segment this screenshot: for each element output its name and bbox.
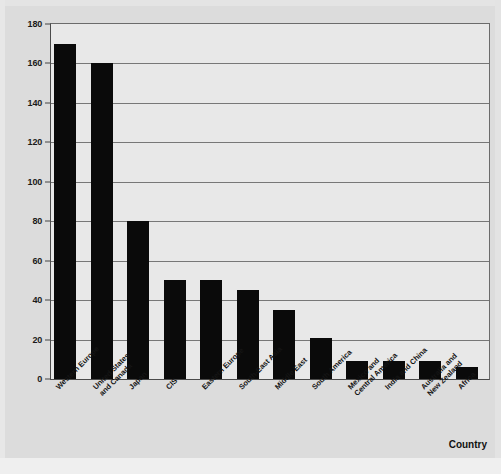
y-axis-tick-label: 180 [28,19,42,29]
y-axis-tick-label: 20 [32,335,42,345]
chart-figure: 020406080100120140160180 Western EuropeU… [0,0,501,474]
x-axis-title: Country [449,439,487,450]
x-axis-tick-labels: Western EuropeUnited States and CanadaJa… [0,381,501,461]
bar [54,44,76,379]
bar [164,280,186,379]
figure-top-margin [0,0,501,6]
y-axis-tick-label: 120 [28,137,42,147]
y-axis-tick-label: 160 [28,58,42,68]
y-axis-tick-label: 80 [32,216,42,226]
bar [127,221,149,379]
y-axis-tick-label: 140 [28,98,42,108]
y-axis: 020406080100120140160180 [0,0,50,380]
y-axis-tick-label: 40 [32,295,42,305]
y-axis-tick-label: 60 [32,256,42,266]
bar-series [51,24,489,379]
y-axis-tick-label: 100 [28,177,42,187]
bar [91,63,113,379]
